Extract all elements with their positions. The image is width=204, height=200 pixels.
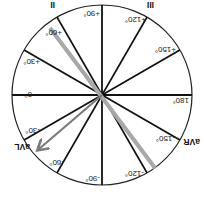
degree-label-0: 0° xyxy=(24,90,32,99)
degree-label-minus-30: -30° xyxy=(25,126,40,135)
hexaxial-diagram: 0° +30° +60° +90° +120° +150° 180° -150°… xyxy=(0,0,204,200)
degree-label-minus-150: -150° xyxy=(156,134,175,143)
degree-label-minus-120: -120° xyxy=(125,169,144,178)
degree-label-180: 180° xyxy=(172,96,189,105)
lead-label-avl: aVL xyxy=(14,142,30,152)
rotated-diagram-group: 0° +30° +60° +90° +120° +150° 180° -150°… xyxy=(12,0,200,185)
lead-label-avr: aVR xyxy=(183,137,200,147)
degree-label-minus-90: -90° xyxy=(85,174,100,183)
hexaxial-svg: 0° +30° +60° +90° +120° +150° 180° -150°… xyxy=(0,0,204,200)
degree-label-plus-30: +30° xyxy=(23,57,40,66)
degree-label-minus-60: -60° xyxy=(49,158,64,167)
degree-label-plus-150: +150° xyxy=(155,45,176,54)
degree-label-plus-90: +90° xyxy=(83,9,100,18)
degree-label-plus-120: +120° xyxy=(125,15,146,24)
lead-label-iii: III xyxy=(147,0,154,10)
lead-label-ii: II xyxy=(50,0,55,10)
degree-label-plus-60: +60° xyxy=(45,28,62,37)
